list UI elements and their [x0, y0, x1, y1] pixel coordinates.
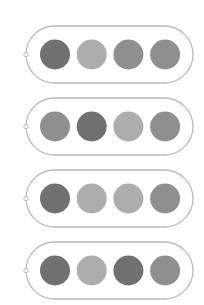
bead-light — [77, 40, 107, 70]
connector-icon — [24, 268, 28, 272]
bead-mid — [150, 184, 180, 214]
bead-dark — [40, 40, 70, 70]
bead-dark — [40, 256, 70, 286]
bead-mid — [40, 112, 70, 142]
bead-mid — [150, 112, 180, 142]
bead-row-4 — [24, 242, 193, 299]
connector-icon — [24, 52, 28, 56]
bead-dark — [40, 184, 70, 214]
bead-light — [113, 112, 143, 142]
bead-mid — [150, 256, 180, 286]
bead-light — [113, 184, 143, 214]
connector-icon — [24, 196, 28, 200]
bead-dark — [113, 256, 143, 286]
bead-dark — [77, 112, 107, 142]
bead-mid — [150, 40, 180, 70]
bead-light — [77, 184, 107, 214]
bead-row-1 — [24, 26, 193, 83]
bead-mid — [113, 40, 143, 70]
bead-rows-diagram — [0, 0, 204, 305]
bead-row-3 — [24, 170, 193, 227]
connector-icon — [24, 124, 28, 128]
bead-light — [77, 256, 107, 286]
bead-row-2 — [24, 98, 193, 155]
